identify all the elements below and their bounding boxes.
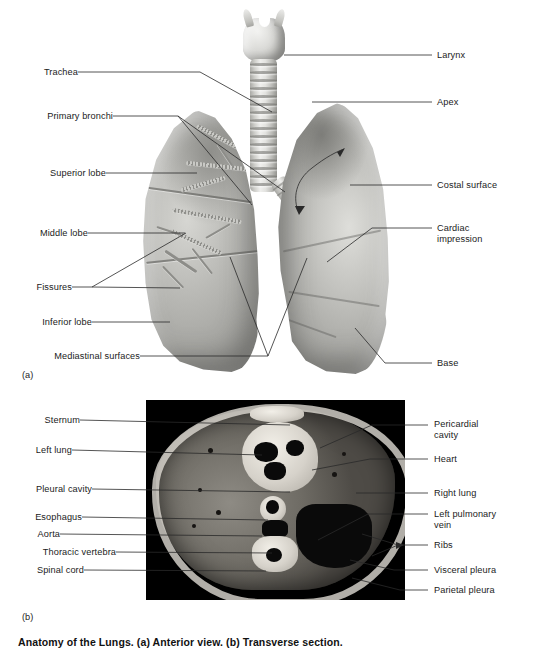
heart-chamber-1	[254, 442, 278, 462]
label-superior-lobe: Superior lobe	[0, 168, 106, 179]
label-pleural-cavity: Pleural cavity	[0, 484, 92, 495]
label-parietal-pleura: Parietal pleura	[434, 585, 495, 596]
label-mediastinal-surfaces: Mediastinal surfaces	[0, 351, 140, 362]
label-left-pulmonary-vein-1: Left pulmonary	[434, 509, 496, 520]
larynx-notch	[259, 14, 270, 27]
label-spinal-cord: Spinal cord	[0, 565, 84, 576]
label-base: Base	[437, 358, 458, 369]
figure-caption: Anatomy of the Lungs. (a) Anterior view.…	[18, 636, 343, 648]
label-left-pulmonary-vein-2: vein	[434, 520, 451, 531]
heart-chamber-3	[264, 462, 286, 480]
label-heart: Heart	[434, 454, 457, 465]
label-cardiac-impression-1: Cardiac	[437, 223, 469, 234]
label-visceral-pleura: Visceral pleura	[434, 565, 496, 576]
air-space	[296, 504, 372, 568]
label-costal-surface: Costal surface	[437, 180, 497, 191]
label-primary-bronchi: Primary bronchi	[0, 111, 113, 122]
label-aorta: Aorta	[0, 529, 60, 540]
sternum-structure	[250, 406, 304, 422]
label-right-lung: Right lung	[434, 488, 476, 499]
label-middle-lobe: Middle lobe	[0, 228, 88, 239]
label-inferior-lobe: Inferior lobe	[0, 317, 92, 328]
label-trachea: Trachea	[0, 67, 78, 78]
heart-chamber-2	[286, 440, 304, 456]
label-pericardial-cavity-2: cavity	[434, 430, 458, 441]
label-sternum: Sternum	[0, 415, 80, 426]
label-esophagus: Esophagus	[0, 512, 82, 523]
right-lung-illustration	[142, 110, 260, 372]
spinal-cord-structure	[266, 548, 282, 562]
label-left-lung: Left lung	[0, 445, 72, 456]
label-thoracic-vertebra: Thoracic vertebra	[0, 547, 116, 558]
lungs-anterior-illustration	[140, 18, 390, 368]
left-lung-illustration	[276, 102, 390, 374]
figure-b-marker: (b)	[22, 612, 33, 622]
label-pericardial-cavity-1: Pericardial	[434, 419, 479, 430]
label-apex: Apex	[437, 97, 458, 108]
label-cardiac-impression-2: impression	[437, 234, 482, 245]
label-fissures: Fissures	[0, 282, 72, 293]
label-ribs: Ribs	[434, 540, 453, 551]
esophagus-lumen	[266, 500, 279, 514]
trachea-illustration	[250, 59, 277, 192]
larynx-illustration	[243, 18, 285, 62]
figure-a-marker: (a)	[22, 370, 33, 380]
heart-structure	[242, 422, 318, 492]
label-larynx: Larynx	[437, 50, 465, 61]
thorax-transverse-section-photo	[146, 400, 405, 600]
